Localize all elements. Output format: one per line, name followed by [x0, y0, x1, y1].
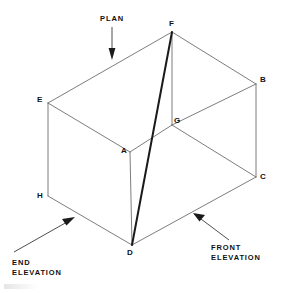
edge-G-C [172, 125, 256, 177]
annotation-leader-front-elevation [193, 213, 229, 240]
annotation-end-elevation-label: END ELEVATION [12, 258, 62, 278]
annotation-front-elevation-line-1: FRONT [211, 243, 261, 253]
vertex-label-B: B [260, 76, 266, 84]
scan-artifact [4, 284, 38, 289]
edge-H-D [48, 196, 132, 245]
isometric-projection-figure: A B C D E F G H PLAN END ELEVATION FRONT… [0, 0, 283, 293]
annotation-leader-plan [109, 27, 116, 60]
arrowhead-plan-down [109, 48, 116, 60]
edge-E-F [48, 32, 172, 103]
vertex-label-G: G [174, 117, 180, 125]
annotation-plan-line-1: PLAN [100, 14, 124, 24]
annotation-front-elevation-line-2: ELEVATION [211, 253, 261, 263]
vertex-label-E: E [37, 96, 43, 104]
edge-G-B [172, 84, 256, 125]
edge-D-C [132, 177, 256, 245]
edge-F-D-diagonal [132, 32, 172, 245]
vertex-label-D: D [127, 249, 133, 257]
vertex-label-C: C [260, 173, 266, 181]
annotation-plan-label: PLAN [100, 14, 124, 24]
edge-E-A [48, 103, 130, 152]
annotation-end-elevation-line-2: ELEVATION [12, 268, 62, 278]
annotation-leader-end-elevation [14, 217, 75, 252]
box-edges-highlight [132, 32, 172, 245]
annotation-end-elevation-line-1: END [12, 258, 62, 268]
vertex-label-A: A [121, 147, 127, 155]
edge-F-B [172, 32, 256, 84]
annotation-front-elevation-label: FRONT ELEVATION [211, 243, 261, 263]
vertex-label-H: H [37, 192, 43, 200]
edge-A-D [130, 152, 132, 245]
leader-line-front-elevation [201, 219, 229, 240]
vertex-label-F: F [169, 20, 174, 28]
leader-line-end-elevation [14, 222, 67, 252]
